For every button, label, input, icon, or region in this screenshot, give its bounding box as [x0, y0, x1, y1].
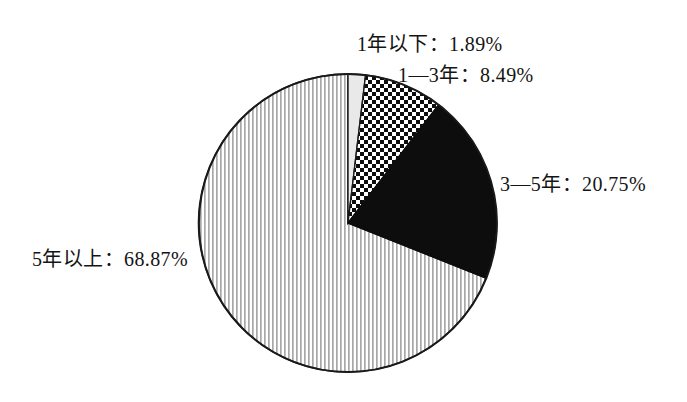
- pie-label-3-to-5-years: 3—5年：20.75%: [500, 168, 646, 197]
- pie-label-1-to-3-years: 1—3年：8.49%: [398, 59, 534, 88]
- pie-chart-figure: 1年以下：1.89% 1—3年：8.49% 3—5年：20.75% 5年以上：6…: [0, 0, 687, 402]
- pie-chart-svg: [0, 0, 687, 402]
- pie-label-over-5-years: 5年以上：68.87%: [32, 243, 188, 272]
- pie-label-under-1-year: 1年以下：1.89%: [357, 28, 503, 57]
